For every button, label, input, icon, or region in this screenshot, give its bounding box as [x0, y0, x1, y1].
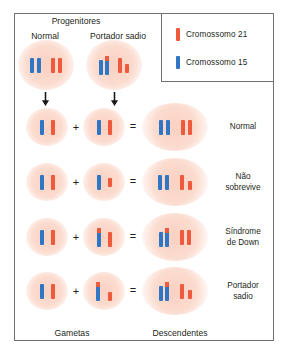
footer-label-descendentes: Descendentes: [130, 328, 230, 338]
chromosome-fusion-15-21: [165, 282, 169, 301]
chromosome-21-short: [188, 181, 192, 190]
chromosome-group-15: [159, 282, 169, 301]
chromosome-pair-15: [158, 175, 169, 190]
chromosome-pair-21: [51, 58, 62, 73]
chromosome-15: [158, 175, 162, 190]
outcome-label: Normal: [212, 122, 274, 133]
chromosome-21-short: [188, 290, 192, 299]
gamete-cell-a: [26, 218, 68, 256]
chromosome-fusion-15-21: [96, 282, 100, 301]
gamete-cell-a: [26, 272, 68, 310]
chromosome-21: [180, 284, 184, 299]
chromosome-set: [83, 163, 125, 201]
legend-item-cromossomo-21: Cromossomo 21: [176, 28, 247, 41]
chromosome-group-21: [180, 175, 192, 190]
chromosome-15: [40, 120, 44, 135]
equals-operator: =: [127, 285, 139, 296]
chromosome-set: [26, 218, 68, 256]
chromosome-set: [86, 40, 142, 90]
fusion-red-segment: [165, 228, 169, 233]
fusion-red-segment: [105, 56, 109, 61]
plus-operator: +: [70, 232, 82, 243]
chromosome-set: [26, 272, 68, 310]
chromosome-set: [26, 163, 68, 201]
chromosome-set: [142, 213, 208, 261]
outcome-line-1: Portador: [227, 281, 258, 290]
chromosome-set: [83, 272, 125, 310]
chromosome-group-21: [180, 284, 192, 299]
chromosome-fusion-15-21: [97, 228, 101, 247]
chromosome-15: [97, 120, 101, 135]
chromosome-21: [58, 58, 62, 73]
parent-cell-normal: [18, 40, 74, 90]
outcome-line-1: Não: [235, 172, 250, 181]
chromosome-21: [188, 120, 192, 135]
chromosome-21: [51, 284, 55, 299]
chromosome-set: [83, 218, 125, 256]
chromosome-21: [51, 120, 55, 135]
chromosome-set: [142, 267, 208, 315]
gamete-cell-b: [83, 163, 125, 201]
chromosome-15: [166, 120, 170, 135]
outcome-line-2: sobrevive: [225, 183, 260, 192]
chromosome-21-short: [108, 292, 112, 301]
legend-item-label: Cromossomo 15: [186, 58, 247, 67]
fusion-red-segment: [165, 282, 169, 287]
chromosome-15: [159, 286, 163, 301]
chromosome-21: [181, 120, 185, 135]
chromosome-fusion-15-21: [105, 56, 109, 75]
outcome-label: Não sobrevive: [212, 172, 274, 193]
chromosome-21-short: [108, 178, 112, 187]
chromosome-set: [142, 103, 208, 151]
gamete-cell-b: [83, 108, 125, 146]
parent-cell-carrier: [86, 40, 142, 90]
chromosome-pair-15: [159, 120, 170, 135]
chromosome-set: [26, 108, 68, 146]
chromosome-15: [165, 175, 169, 190]
chromosome-blue-icon: [176, 56, 180, 69]
gamete-cell-a: [26, 108, 68, 146]
gamete-cell-b: [83, 218, 125, 256]
chromosome-21: [108, 232, 112, 247]
chromosome-pair-21: [180, 230, 191, 245]
chromosome-set: [83, 108, 125, 146]
chromosome-15: [159, 232, 163, 247]
chromosome-15: [40, 175, 44, 190]
chromosome-21: [51, 58, 55, 73]
chromosome-pair-15: [30, 58, 41, 73]
chromosome-group: [97, 228, 112, 247]
outcome-label: Portador sadio: [212, 281, 274, 302]
chromosome-15: [40, 284, 44, 299]
chromosome-15: [159, 120, 163, 135]
legend-item-label: Cromossomo 21: [186, 30, 247, 39]
footer-label-gametas: Gametas: [30, 328, 114, 338]
outcome-line-1: Síndrome: [225, 227, 261, 236]
offspring-cell: [142, 213, 208, 261]
plus-operator: +: [70, 177, 82, 188]
offspring-cell: [142, 267, 208, 315]
gamete-cell-b: [83, 272, 125, 310]
chromosome-15: [99, 60, 103, 75]
chromosome-red-icon: [176, 28, 180, 41]
figure-caption: [16, 347, 278, 354]
meiosis-arrow-icon: [41, 92, 50, 107]
chromosome-21: [180, 175, 184, 190]
gamete-cell-a: [26, 163, 68, 201]
chromosome-fusion-15-21: [165, 228, 169, 247]
chromosome-set: [18, 40, 74, 90]
equals-operator: =: [127, 231, 139, 242]
meiosis-arrow-icon: [110, 92, 119, 107]
chromosome-21: [180, 230, 184, 245]
plus-operator: +: [70, 122, 82, 133]
chromosome-21: [187, 230, 191, 245]
equals-operator: =: [127, 176, 139, 187]
chromosome-15: [30, 58, 34, 73]
header-progenitores: Progenitores: [0, 16, 152, 26]
figure-root: { "figure": { "headers": { "progenitores…: [0, 0, 288, 355]
outcome-label: Síndrome de Down: [212, 227, 274, 248]
chromosome-group-15: [159, 228, 169, 247]
chromosome-15: [40, 230, 44, 245]
chromosome-21: [51, 175, 55, 190]
outcome-line-2: de Down: [227, 238, 259, 247]
chromosome-21: [51, 230, 55, 245]
